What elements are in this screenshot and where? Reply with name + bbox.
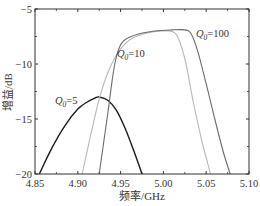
x-tick-label: 5.05 [197,178,215,189]
series-label-q0-5: Q0=5 [55,95,78,109]
gain-vs-frequency-chart: 4.854.904.955.005.055.10−5−10−15−20Q0=5Q… [0,0,260,206]
series-label-q0-100: Q0=100 [196,28,229,42]
series-label-q0-10: Q0=10 [117,48,145,62]
y-axis-title: 增益/dB [1,73,14,111]
y-tick-label: −20 [16,169,32,180]
x-tick-label: 5.00 [154,178,172,189]
x-tick-label: 5.10 [240,178,258,189]
y-tick-label: −10 [16,59,32,70]
x-axis-title: 频率/GHz [119,189,165,202]
x-tick-label: 4.90 [69,178,87,189]
chart-canvas: 4.854.904.955.005.055.10−5−10−15−20Q0=5Q… [0,0,260,206]
y-tick-label: −15 [16,114,32,125]
y-tick-label: −5 [21,4,32,15]
x-tick-label: 4.95 [111,178,129,189]
series-line-q0-10 [82,31,210,174]
